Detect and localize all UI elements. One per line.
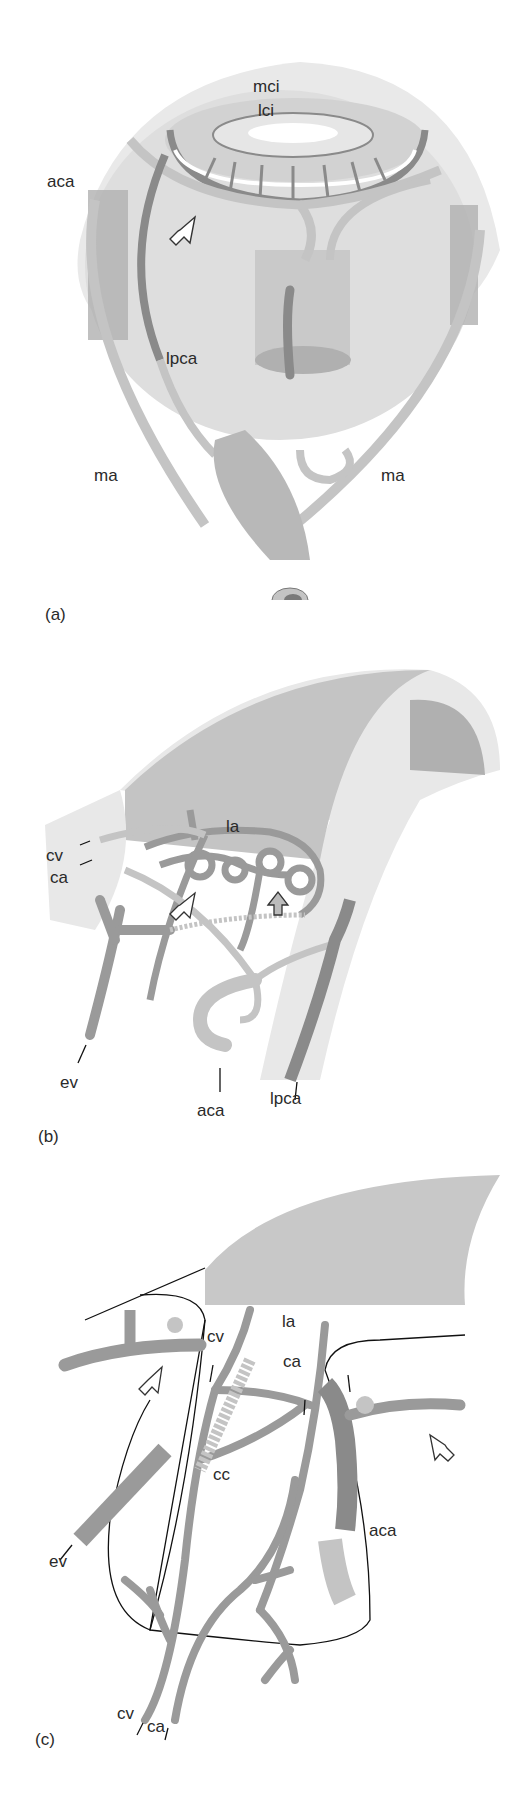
label-ev: ev	[49, 1553, 67, 1570]
label-ev: ev	[60, 1074, 78, 1091]
label-lpca: lpca	[270, 1090, 301, 1107]
label-ca-bottom: ca	[147, 1718, 165, 1735]
label-ca: ca	[50, 869, 68, 886]
label-la: la	[226, 818, 239, 835]
label-la: la	[282, 1313, 295, 1330]
label-lpca: lpca	[166, 350, 197, 367]
panel-b-iris-vasculature: la cv ca ev aca lpca (b)	[0, 600, 532, 1160]
label-ma-right: ma	[381, 467, 405, 484]
label-aca: aca	[47, 173, 74, 190]
open-arrow-icon	[139, 1367, 162, 1395]
label-mci: mci	[253, 78, 279, 95]
label-ma-left: ma	[94, 467, 118, 484]
label-lci: lci	[258, 102, 274, 119]
label-aca: aca	[197, 1102, 224, 1119]
panel-c-illustration	[0, 1160, 532, 1795]
panel-a-eye-globe-vasculature: mci lci aca lpca ma ma (a)	[0, 0, 532, 600]
label-aca: aca	[369, 1522, 396, 1539]
panel-caption-b: (b)	[38, 1127, 59, 1147]
label-cv-top: cv	[207, 1328, 224, 1345]
filled-arrow-icon	[268, 892, 288, 915]
label-cv: cv	[46, 847, 63, 864]
panel-b-illustration	[0, 600, 532, 1160]
panel-c-ciliary-process-vasculature: cv la ca cc ev aca cv ca (c)	[0, 1160, 532, 1795]
label-cc: cc	[213, 1466, 230, 1483]
label-ca-top: ca	[283, 1353, 301, 1370]
panel-caption-c: (c)	[35, 1730, 55, 1750]
label-cv-bottom: cv	[117, 1705, 134, 1722]
open-arrow-icon	[430, 1435, 454, 1461]
